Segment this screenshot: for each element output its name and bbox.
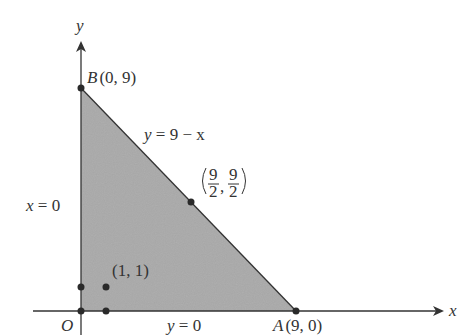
point-midpoint bbox=[188, 199, 195, 206]
point-1-1 bbox=[103, 284, 110, 291]
feasible-region-diagram: y x O B(0, 9) A(9, 0) y = 9 − x x = 0 y … bbox=[0, 0, 473, 335]
vertex-A-label: A(9, 0) bbox=[272, 316, 322, 335]
svg-text:2: 2 bbox=[229, 182, 238, 201]
vertex-B-label: B(0, 9) bbox=[87, 68, 136, 87]
equation-y-equals-0: y = 0 bbox=[165, 316, 201, 335]
midpoint-label: 9 2 , 9 2 bbox=[203, 165, 246, 201]
y-axis-label: y bbox=[74, 16, 84, 35]
equation-y-equals-9-minus-x: y = 9 − x bbox=[142, 125, 205, 144]
x-axis-label: x bbox=[448, 301, 457, 320]
origin-label: O bbox=[61, 316, 73, 335]
point-A bbox=[293, 308, 300, 315]
point-1-1-label: (1, 1) bbox=[112, 261, 149, 280]
point-origin bbox=[78, 308, 85, 315]
point-0-1 bbox=[78, 284, 85, 291]
svg-text:,: , bbox=[220, 177, 224, 196]
point-B bbox=[78, 85, 85, 92]
svg-text:2: 2 bbox=[209, 182, 218, 201]
equation-x-equals-0: x = 0 bbox=[25, 196, 60, 215]
point-1-0 bbox=[103, 308, 110, 315]
